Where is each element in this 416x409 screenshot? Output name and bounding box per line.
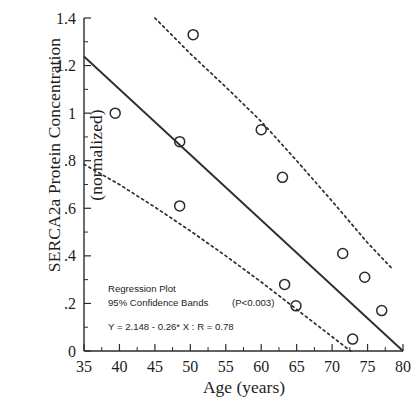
x-tick-label: 75 (360, 358, 376, 375)
y-tick-label: .4 (64, 247, 76, 264)
annotation-pvalue: (P<0.003) (232, 297, 274, 308)
y-tick-label: 1.4 (56, 10, 76, 27)
y-tick-label: .6 (64, 200, 76, 217)
y-tick-label: 0 (68, 343, 76, 360)
data-point (377, 306, 387, 316)
x-tick-label: 50 (182, 358, 198, 375)
x-tick-label: 55 (218, 358, 234, 375)
x-tick-label: 35 (76, 358, 92, 375)
data-point (175, 201, 185, 211)
x-tick-label: 40 (111, 358, 127, 375)
regression-scatter-figure: SERCA2a Protein Concentration (normalize… (0, 0, 416, 409)
data-point (277, 172, 287, 182)
y-tick-label: 1 (68, 105, 76, 122)
data-point (348, 334, 358, 344)
x-tick-label: 65 (289, 358, 305, 375)
data-point (338, 248, 348, 258)
annotation-regression-plot: Regression Plot (108, 283, 176, 294)
plot-area: 0.2.4.6.811.21.4 35404550556065707580 Re… (0, 0, 416, 409)
data-point (360, 272, 370, 282)
annotation-confidence-bands: 95% Confidence Bands (108, 297, 208, 308)
x-tick-label: 70 (324, 358, 340, 375)
data-point (110, 108, 120, 118)
data-point (256, 125, 266, 135)
x-tick-label: 60 (253, 358, 269, 375)
y-tick-label: 1.2 (56, 57, 76, 74)
data-point (188, 30, 198, 40)
annotation-equation: Y = 2.148 - 0.26* X : R = 0.78 (108, 321, 234, 332)
data-point (280, 279, 290, 289)
x-tick-label: 80 (395, 358, 411, 375)
y-tick-label: .2 (64, 295, 76, 312)
y-tick-label: .8 (64, 152, 76, 169)
x-axis-ticks: 35404550556065707580 (76, 344, 411, 375)
y-axis-ticks: 0.2.4.6.811.21.4 (56, 10, 91, 360)
x-tick-label: 45 (147, 358, 163, 375)
